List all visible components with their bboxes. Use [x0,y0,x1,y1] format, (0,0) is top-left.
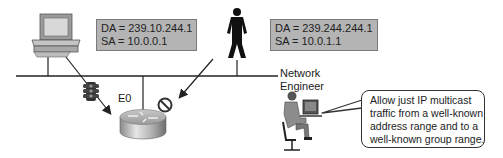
engineer-label-line2: Engineer [280,80,324,93]
source-address: SA = 10.0.1.1 [275,35,373,48]
packet-info-allowed: DA = 239.10.244.1 SA = 10.0.0.1 [96,19,197,51]
network-engineer-icon [283,92,322,151]
interface-label: E0 [118,92,131,105]
traffic-light-icon [83,82,99,101]
packet-info-blocked: DA = 239.244.244.1 SA = 10.0.1.1 [270,19,378,51]
callout-line: well-known group range. [370,133,484,146]
ethernet-bus [16,57,278,113]
callout-line: Allow just IP multicast [370,94,484,107]
user-icon [227,8,247,58]
source-address: SA = 10.0.0.1 [101,35,192,48]
destination-address: DA = 239.244.244.1 [275,22,373,35]
router-icon [120,110,166,140]
callout-tail [322,100,362,113]
callout-bubble: Allow just IP multicast traffic from a w… [361,90,485,148]
blocked-traffic-arrow [180,59,213,97]
blocked-icon [159,99,172,112]
destination-address: DA = 239.10.244.1 [101,22,192,35]
workstation-icon [32,14,80,57]
callout-line: address range and to a [370,120,484,133]
callout-line: traffic from a well-known [370,107,484,120]
engineer-label-line1: Network [280,67,320,80]
